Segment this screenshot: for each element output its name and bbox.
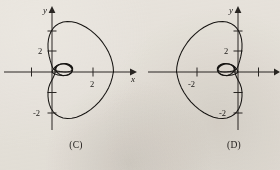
figure-root: x y 2 2 -2 (C) <box>0 0 280 170</box>
y-tick-label-2-c: 2 <box>38 46 42 56</box>
polar-plot-d: y -2 2 -2 <box>140 0 280 140</box>
polar-plot-c: x y 2 2 -2 <box>0 0 140 140</box>
y-tick-label-minus2-d: -2 <box>219 108 226 118</box>
limacon-curve-d <box>177 22 243 119</box>
y-tick-label-2-d: 2 <box>224 46 228 56</box>
x-axis-arrowhead-d <box>274 69 280 76</box>
x-tick-label-2-c: 2 <box>90 79 94 89</box>
y-axis-label-d: y <box>228 5 233 15</box>
answer-choice-panel-c: x y 2 2 -2 (C) <box>0 0 140 170</box>
y-tick-label-minus2-c: -2 <box>33 108 40 118</box>
caption-d: (D) <box>140 140 280 150</box>
y-axis-label-c: y <box>42 5 47 15</box>
x-tick-label-minus2-d: -2 <box>188 79 195 89</box>
y-axis-arrowhead-d <box>235 6 242 13</box>
answer-choice-panel-d: y -2 2 -2 (D) <box>140 0 280 170</box>
y-axis-arrowhead-c <box>49 6 56 13</box>
limacon-curve-c <box>48 22 114 119</box>
x-axis-label-c: x <box>130 74 135 84</box>
caption-c: (C) <box>0 140 146 150</box>
